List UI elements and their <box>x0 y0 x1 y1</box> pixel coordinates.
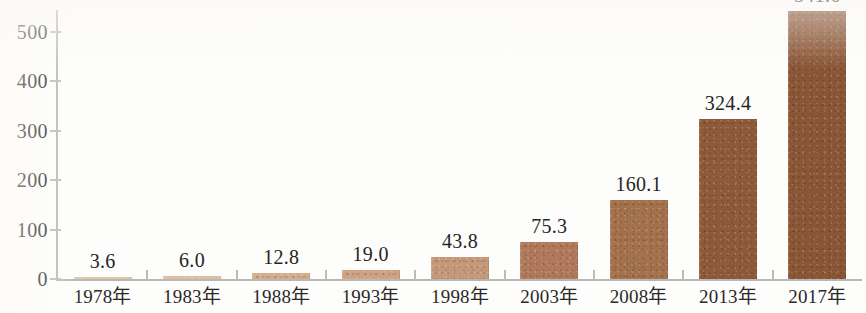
x-axis-category-label: 1978年 <box>74 287 132 306</box>
x-axis-category-label: 1988年 <box>252 287 310 306</box>
bar[interactable] <box>163 276 221 279</box>
bar-group[interactable]: 75.3 <box>505 0 594 279</box>
bar-value-label: 324.4 <box>705 93 752 113</box>
bar-chart: 0100200300400500 3.66.012.819.043.875.31… <box>0 0 866 313</box>
bar-value-label: 19.0 <box>353 244 389 264</box>
x-axis-category-label: 1983年 <box>163 287 221 306</box>
bar-group[interactable]: 6.0 <box>147 0 236 279</box>
bar[interactable] <box>342 270 400 279</box>
bar-group[interactable]: 160.1 <box>594 0 683 279</box>
bar-value-label: 541.6 <box>794 0 841 5</box>
y-axis-tick-label: 100 <box>2 220 48 240</box>
y-axis-tick-label: 400 <box>2 71 48 91</box>
bar[interactable] <box>520 242 578 279</box>
x-axis-category-label: 2017年 <box>788 287 846 306</box>
bar-group[interactable]: 3.6 <box>58 0 147 279</box>
y-axis-tick-label: 0 <box>2 269 48 289</box>
x-axis-category-label: 2008年 <box>610 287 668 306</box>
bar[interactable] <box>252 273 310 279</box>
bar[interactable] <box>788 11 846 279</box>
bar-group[interactable]: 43.8 <box>415 0 504 279</box>
x-axis-category-label: 2013年 <box>699 287 757 306</box>
x-axis-category-label: 1998年 <box>431 287 489 306</box>
y-axis-tick-label: 200 <box>2 170 48 190</box>
y-axis-tick-label: 300 <box>2 121 48 141</box>
bar-group[interactable]: 19.0 <box>326 0 415 279</box>
x-axis-category-label: 1993年 <box>342 287 400 306</box>
bar-group[interactable]: 12.8 <box>237 0 326 279</box>
bar[interactable] <box>610 200 668 279</box>
x-axis-line <box>56 279 862 281</box>
plot-area: 3.66.012.819.043.875.3160.1324.4541.6 <box>58 0 862 279</box>
bar-group[interactable]: 324.4 <box>683 0 772 279</box>
bar[interactable] <box>431 257 489 279</box>
bar-group[interactable]: 541.6 <box>773 0 862 279</box>
x-axis-category-label: 2003年 <box>520 287 578 306</box>
bar-value-label: 43.8 <box>442 231 478 251</box>
bar-value-label: 12.8 <box>263 247 299 267</box>
bar-value-label: 160.1 <box>615 174 662 194</box>
bar-value-label: 3.6 <box>90 251 116 271</box>
bar-value-label: 75.3 <box>531 216 567 236</box>
bar[interactable] <box>699 119 757 279</box>
bar[interactable] <box>74 277 132 279</box>
bar-value-label: 6.0 <box>179 250 205 270</box>
y-axis-tick-label: 500 <box>2 22 48 42</box>
